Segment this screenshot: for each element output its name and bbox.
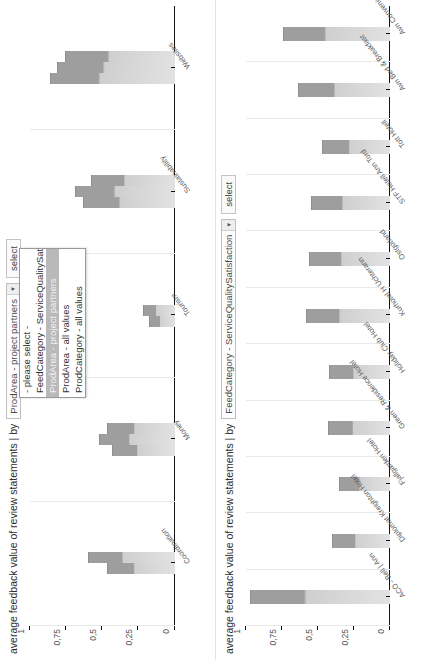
bar[interactable] xyxy=(283,27,390,41)
x-tick-mark xyxy=(386,371,390,372)
bar[interactable] xyxy=(250,590,390,604)
x-tick-mark xyxy=(386,146,390,147)
gridline xyxy=(246,400,391,401)
bar[interactable] xyxy=(91,175,175,186)
gridline xyxy=(246,230,391,231)
y-tick-label: 0,75 xyxy=(52,629,62,648)
y-tick-label: 0,25 xyxy=(124,629,134,648)
dimension-dropdown-list[interactable]: - please select - FeedCategory - Service… xyxy=(19,248,86,398)
y-tick-mark xyxy=(389,626,390,630)
x-tick-mark xyxy=(386,258,390,259)
bar[interactable] xyxy=(112,445,174,456)
gridline xyxy=(246,174,391,175)
top-x-tick-labels: CoordinationMoneyTourismSustainabilityWe… xyxy=(175,6,215,625)
y-tick-label: 0,5 xyxy=(304,629,314,648)
x-tick-mark xyxy=(386,596,390,597)
rotated-dashboard: average feedback value of review stateme… xyxy=(0,0,430,660)
y-tick-label: 0,5 xyxy=(88,629,98,648)
x-tick-mark xyxy=(171,562,175,563)
y-tick-label: 0 xyxy=(161,629,171,648)
bar-group xyxy=(246,6,391,62)
gridline xyxy=(246,512,391,513)
gridline xyxy=(246,569,391,570)
x-tick-mark xyxy=(386,89,390,90)
x-tick-mark xyxy=(386,427,390,428)
gridline xyxy=(246,61,391,62)
y-tick-mark xyxy=(317,626,318,630)
x-tick-mark xyxy=(386,33,390,34)
x-tick-mark xyxy=(171,191,175,192)
gridline xyxy=(246,287,391,288)
top-dimension-value: ProdArea - project partners xyxy=(7,295,20,418)
bottom-select-button[interactable]: select xyxy=(221,175,236,214)
bar[interactable] xyxy=(149,316,175,327)
gridline xyxy=(246,343,391,344)
bottom-dimension-combo[interactable]: FeedCategory - ServiceQualitySatisfactio… xyxy=(221,219,236,419)
chevron-down-icon[interactable]: ▼ xyxy=(7,284,20,295)
bottom-dimension-value: FeedCategory - ServiceQualitySatisfactio… xyxy=(222,231,235,418)
x-tick-mark xyxy=(386,483,390,484)
bar[interactable] xyxy=(57,62,174,73)
x-tick-mark xyxy=(386,315,390,316)
y-tick-mark xyxy=(174,626,175,630)
bar[interactable] xyxy=(50,73,174,84)
chevron-down-icon[interactable]: ▼ xyxy=(222,220,235,231)
bar[interactable] xyxy=(306,309,390,323)
gridline xyxy=(30,501,175,502)
y-tick-label: 0,75 xyxy=(268,629,278,648)
bottom-chart-header: average feedback value of review stateme… xyxy=(220,175,238,654)
bar[interactable] xyxy=(298,83,390,97)
dropdown-option-0[interactable]: - please select - xyxy=(20,249,33,397)
bar-group xyxy=(246,175,391,231)
top-chart-panel: average feedback value of review stateme… xyxy=(0,0,215,660)
y-tick-mark xyxy=(65,626,66,630)
x-tick-mark xyxy=(171,438,175,439)
y-tick-mark xyxy=(353,626,354,630)
y-tick-mark xyxy=(245,626,246,630)
y-tick-label: 1 xyxy=(16,629,26,648)
gridline xyxy=(246,456,391,457)
x-tick-mark xyxy=(171,67,175,68)
y-tick-label: 0,25 xyxy=(340,629,350,648)
dropdown-option-3[interactable]: ProdArea - all values xyxy=(59,249,72,397)
y-tick-label: 1 xyxy=(232,629,242,648)
dropdown-option-4[interactable]: ProdCategory - all values xyxy=(72,249,85,397)
gridline xyxy=(30,625,175,626)
bar[interactable] xyxy=(99,434,174,445)
x-tick-mark xyxy=(171,315,175,316)
y-tick-mark xyxy=(29,626,30,630)
x-tick-mark xyxy=(386,540,390,541)
bar[interactable] xyxy=(65,51,175,62)
gridline xyxy=(246,625,391,626)
y-tick-mark xyxy=(281,626,282,630)
bottom-x-tick-labels: ACO - Bell | AnnDiplomat Kreighton Hotel… xyxy=(390,6,430,625)
bar-group xyxy=(246,569,391,625)
dropdown-option-1[interactable]: FeedCategory - ServiceQualitySatisfactio… xyxy=(33,249,46,397)
y-tick-mark xyxy=(101,626,102,630)
bar-group xyxy=(246,400,391,456)
bar-group xyxy=(246,231,391,287)
bottom-chart-panel: average feedback value of review stateme… xyxy=(216,0,430,660)
gridline xyxy=(246,118,391,119)
dropdown-option-2[interactable]: ProdArea - project partners xyxy=(46,249,59,397)
x-tick-mark xyxy=(386,202,390,203)
bar[interactable] xyxy=(75,186,175,197)
bar[interactable] xyxy=(83,197,174,208)
y-tick-mark xyxy=(137,626,138,630)
top-chart-title: average feedback value of review stateme… xyxy=(7,424,19,654)
bar[interactable] xyxy=(107,423,175,434)
bottom-chart-title: average feedback value of review stateme… xyxy=(223,424,235,654)
y-tick-label: 0 xyxy=(376,629,386,648)
bar[interactable] xyxy=(107,563,175,574)
gridline xyxy=(30,129,175,130)
bar[interactable] xyxy=(88,552,175,563)
